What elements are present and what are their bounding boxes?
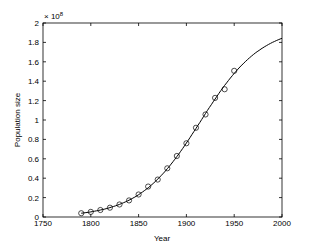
y-tick-label: 1.8	[28, 38, 40, 47]
y-tick-label: 1.6	[28, 58, 40, 67]
data-point-marker	[222, 87, 227, 92]
population-chart: 00.20.40.60.811.21.41.61.82 175018001850…	[0, 0, 309, 248]
y-tick-label: 0.2	[28, 194, 40, 203]
y-axis-ticks: 00.20.40.60.811.21.41.61.82	[28, 19, 282, 222]
y-tick-label: 0.8	[28, 135, 40, 144]
y-tick-label: 2	[35, 19, 40, 28]
y-multiplier-label: × 108	[44, 11, 64, 21]
x-tick-label: 1950	[225, 219, 243, 228]
x-tick-label: 1850	[130, 219, 148, 228]
x-axis-ticks: 175018001850190019502000	[34, 23, 291, 228]
census-data-markers	[79, 68, 237, 216]
x-tick-label: 1900	[178, 219, 196, 228]
plot-box	[43, 23, 282, 217]
x-tick-label: 1800	[82, 219, 100, 228]
logistic-fit-line	[81, 38, 282, 213]
axes-frame	[43, 23, 282, 217]
y-tick-label: 1	[35, 116, 40, 125]
y-tick-label: 0.6	[28, 155, 40, 164]
y-axis-label: Population size	[13, 92, 22, 147]
x-tick-label: 2000	[273, 219, 291, 228]
y-tick-label: 0.4	[28, 174, 40, 183]
x-tick-label: 1750	[34, 219, 52, 228]
y-tick-label: 1.2	[28, 97, 40, 106]
y-tick-label: 1.4	[28, 77, 40, 86]
x-axis-label: Year	[154, 234, 171, 243]
